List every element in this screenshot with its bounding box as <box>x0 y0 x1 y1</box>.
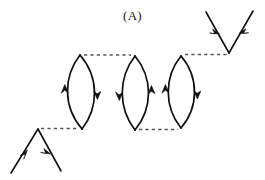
arrow-head-right-incoming-icon <box>210 29 220 34</box>
loop-2-right-arc <box>135 56 149 130</box>
loop-2 <box>116 56 155 130</box>
loop-3 <box>162 56 201 128</box>
left-vertex-outgoing-leg <box>38 129 61 171</box>
feynman-diagram <box>0 0 265 180</box>
figure-panel: (A) <box>0 0 265 180</box>
left-vertex <box>11 129 61 173</box>
loop-2-left-arc <box>122 56 135 130</box>
loop-3-left-arc <box>168 56 181 128</box>
left-vertex-incoming-leg <box>11 129 38 173</box>
right-vertex <box>206 11 253 53</box>
loop-1 <box>61 55 101 129</box>
loop-1-right-arc <box>80 55 95 129</box>
arrow-head-right-outgoing-icon <box>239 29 249 34</box>
loop-3-right-arc <box>181 56 195 128</box>
loop-1-left-arc <box>67 55 82 129</box>
